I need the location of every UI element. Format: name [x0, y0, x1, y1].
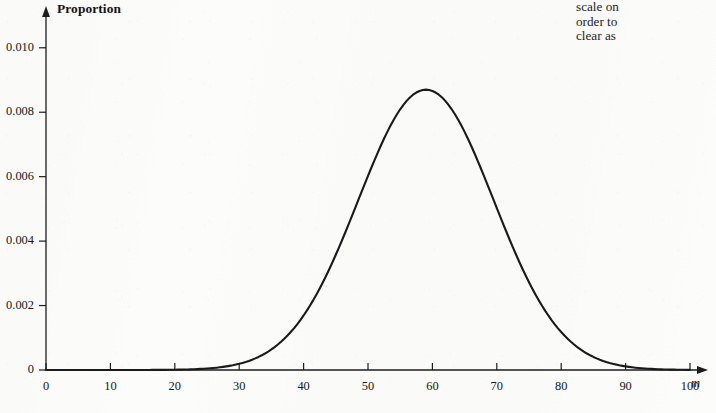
x-axis-tick-label: 70 [472, 379, 522, 394]
x-axis-tick-label: 90 [601, 379, 651, 394]
x-axis-tick-label: 80 [536, 379, 586, 394]
y-axis-tick-label: 0.004 [0, 233, 34, 248]
y-axis-tick-label: 0.010 [0, 40, 34, 55]
y-axis-tick-label: 0.006 [0, 169, 34, 184]
x-axis-tick-label: 0 [21, 379, 71, 394]
x-axis-tick-label: 100 [665, 379, 715, 394]
x-axis-tick-label: 10 [85, 379, 135, 394]
x-axis-tick-label: 20 [150, 379, 200, 394]
distribution-curve [46, 90, 690, 370]
scanned-page: scale on order to clear as Proportion m … [0, 0, 716, 413]
x-axis-tick-label: 60 [407, 379, 457, 394]
y-axis-arrowhead [42, 6, 50, 17]
x-axis-group [46, 363, 708, 374]
y-axis-tick-label: 0.008 [0, 104, 34, 119]
y-axis-ticks [39, 48, 46, 370]
y-axis-tick-label: 0.002 [0, 298, 34, 313]
y-axis-group [39, 6, 50, 370]
normal-distribution-chart: Proportion m 00.0020.0040.0060.0080.010 … [0, 0, 716, 413]
plot-canvas [0, 0, 716, 413]
x-axis-tick-label: 30 [214, 379, 264, 394]
x-axis-tick-label: 50 [343, 379, 393, 394]
x-axis-tick-label: 40 [279, 379, 329, 394]
x-axis-arrowhead [697, 366, 708, 374]
y-axis-tick-label: 0 [0, 362, 34, 377]
